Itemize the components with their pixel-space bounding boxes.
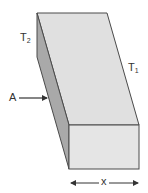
slab-figure bbox=[0, 0, 148, 193]
label-t2: T2 bbox=[20, 32, 31, 44]
label-thickness: x bbox=[99, 176, 109, 187]
slab-diagram: T2 T1 A x bbox=[0, 0, 148, 193]
label-area: A bbox=[9, 92, 16, 103]
slab-front-face bbox=[69, 125, 139, 169]
label-t1: T1 bbox=[128, 62, 139, 74]
